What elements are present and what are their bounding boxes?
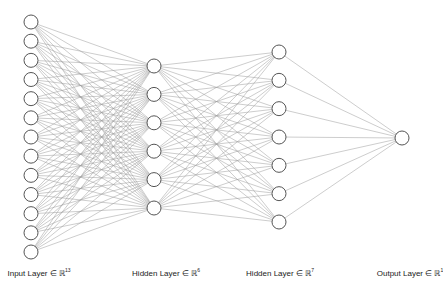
neuron-node-layer-0: [24, 149, 38, 163]
neuron-node-layer-0: [24, 188, 38, 202]
edge: [31, 118, 154, 180]
edge: [31, 94, 154, 156]
layer-label-hidden-1: Hidden Layer ∈ ℝ6: [132, 267, 200, 278]
neuron-node-layer-2: [272, 45, 286, 59]
neuron-node-layer-0: [24, 207, 38, 221]
edge: [31, 80, 154, 209]
layer-label-hidden-2: Hidden Layer ∈ ℝ7: [246, 267, 314, 278]
edge: [31, 22, 154, 94]
edge: [31, 60, 154, 66]
edge: [279, 138, 402, 165]
neuron-node-layer-3: [395, 131, 409, 145]
layer-label-input: Input Layer ∈ ℝ13: [7, 267, 70, 278]
edge: [31, 60, 154, 122]
edge: [31, 118, 154, 123]
neuron-node-layer-1: [147, 144, 161, 158]
edge: [31, 208, 154, 252]
neuron-node-layer-2: [272, 215, 286, 229]
layer-label-output: Output Layer ∈ ℝ1: [377, 267, 443, 278]
neuron-node-layer-1: [147, 173, 161, 187]
edge: [279, 80, 402, 138]
neuron-node-layer-0: [24, 53, 38, 67]
edge: [31, 180, 154, 252]
edge: [31, 94, 154, 213]
edge: [31, 94, 154, 194]
edge: [279, 52, 402, 138]
neuron-node-layer-2: [272, 102, 286, 116]
neuron-node-layer-0: [24, 245, 38, 259]
edge: [31, 137, 154, 208]
neuron-node-layer-1: [147, 87, 161, 101]
neuron-node-layer-2: [272, 187, 286, 201]
neuron-node-layer-1: [147, 116, 161, 130]
neuron-node-layer-0: [24, 130, 38, 144]
neuron-node-layer-0: [24, 226, 38, 240]
edge: [154, 52, 279, 66]
edge: [31, 151, 154, 252]
edge: [154, 52, 279, 180]
edge: [154, 194, 279, 208]
neuron-node-layer-1: [147, 59, 161, 73]
edge: [154, 165, 279, 208]
edge: [31, 66, 154, 195]
neuron-node-layer-0: [24, 168, 38, 182]
edge: [279, 138, 402, 222]
neuron-node-layer-0: [24, 34, 38, 48]
neuron-node-layer-0: [24, 92, 38, 106]
neuron-node-layer-0: [24, 73, 38, 87]
edge: [31, 60, 154, 179]
neuron-node-layer-2: [272, 158, 286, 172]
edge: [279, 137, 402, 138]
edge: [279, 138, 402, 194]
edge: [154, 137, 279, 208]
edge: [31, 80, 154, 123]
edge: [31, 22, 154, 66]
neuron-node-layer-0: [24, 111, 38, 125]
edge: [279, 109, 402, 138]
edge: [154, 52, 279, 94]
edge: [154, 52, 279, 151]
edge: [31, 41, 154, 208]
edge: [154, 52, 279, 208]
edge: [31, 66, 154, 233]
neuron-node-layer-2: [272, 73, 286, 87]
edge: [154, 52, 279, 123]
edge: [31, 22, 154, 123]
neuron-node-layer-2: [272, 130, 286, 144]
edge: [31, 66, 154, 137]
edge: [154, 109, 279, 208]
neuron-node-layer-0: [24, 15, 38, 29]
edge: [31, 151, 154, 156]
edge: [31, 208, 154, 214]
edges: [31, 22, 402, 252]
neuron-node-layer-1: [147, 201, 161, 215]
edge: [31, 151, 154, 213]
edge: [31, 80, 154, 180]
edge: [154, 208, 279, 222]
edge: [154, 80, 279, 208]
